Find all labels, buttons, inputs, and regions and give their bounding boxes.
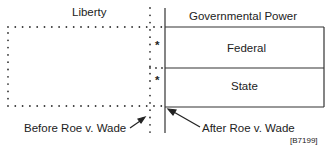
federal-asterisk: * [155, 39, 159, 51]
state-label: State [231, 80, 258, 92]
after-arrow-icon [172, 111, 200, 127]
liberty-label: Liberty [72, 6, 107, 18]
liberty-dotted-box [7, 7, 163, 133]
federal-label: Federal [227, 42, 266, 54]
government-power-label: Governmental Power [189, 10, 297, 22]
after-roe-label: After Roe v. Wade [202, 122, 295, 134]
government-box [165, 8, 324, 133]
state-asterisk: * [155, 74, 159, 86]
figure-id: [B7199] [290, 136, 318, 145]
before-roe-label: Before Roe v. Wade [24, 122, 126, 134]
